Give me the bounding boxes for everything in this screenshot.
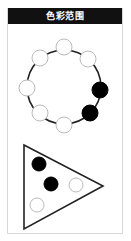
ring-dot-top-empty — [56, 39, 72, 55]
triangle-diagram — [24, 145, 103, 229]
ring-dot-lower-right-filled — [82, 105, 98, 121]
ring-diagram — [19, 39, 108, 133]
color-range-diagram — [0, 0, 131, 241]
ring-dot-bottom-empty — [56, 117, 72, 133]
triangle-dot-4-empty — [30, 198, 44, 212]
ring-dot-left-empty — [19, 80, 35, 96]
triangle-dot-1-filled — [32, 157, 46, 171]
ring-dot-lower-left-empty — [32, 105, 48, 121]
ring-dot-upper-left-empty — [32, 50, 48, 66]
triangle-dot-2-filled — [44, 177, 58, 191]
ring-dot-right-filled — [92, 82, 108, 98]
ring-dot-upper-right-empty — [80, 51, 96, 67]
triangle-dot-3-empty — [69, 178, 83, 192]
